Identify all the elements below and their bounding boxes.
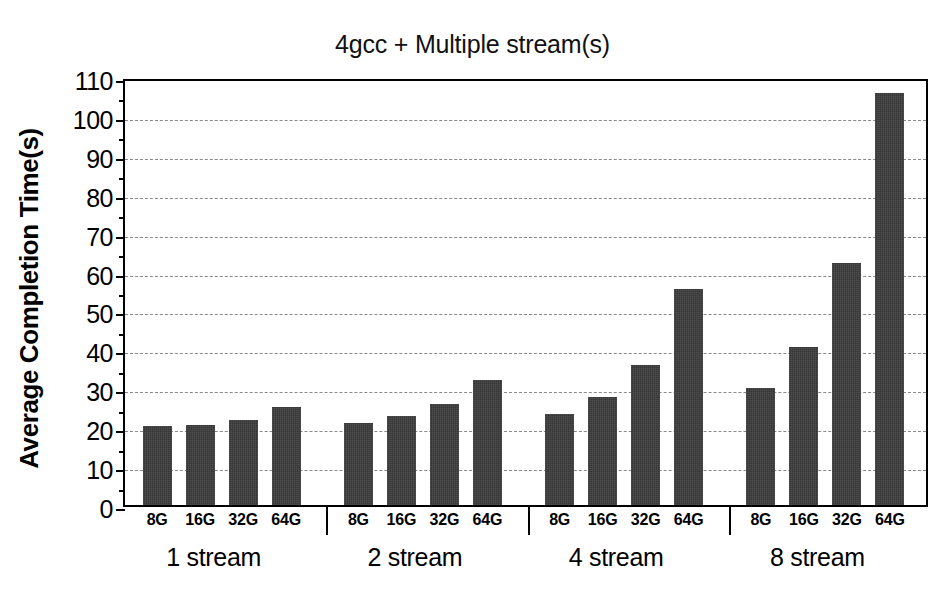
bar xyxy=(588,397,617,505)
gridline xyxy=(125,198,926,199)
y-axis-tick-label: 110 xyxy=(75,67,113,96)
x-axis-tick-label: 64G xyxy=(473,511,503,529)
x-axis-tick-label: 32G xyxy=(832,511,862,529)
bar xyxy=(430,404,459,505)
x-axis-tick-label: 16G xyxy=(185,511,215,529)
x-axis-tick-label: 32G xyxy=(631,511,661,529)
gridline xyxy=(125,276,926,277)
y-axis-minor-tick xyxy=(119,373,125,375)
x-axis-tick-label: 64G xyxy=(875,511,905,529)
y-axis-minor-tick xyxy=(119,139,125,141)
x-axis-group-label: 8 stream xyxy=(770,543,865,572)
bar xyxy=(387,416,416,505)
y-axis-minor-tick xyxy=(119,295,125,297)
group-separator xyxy=(729,505,731,535)
y-axis-label: Average Completion Time(s) xyxy=(14,84,45,514)
y-axis-tick xyxy=(116,120,125,122)
y-axis-tick-label: 30 xyxy=(86,378,113,407)
x-axis-tick-label: 8G xyxy=(348,511,369,529)
bar xyxy=(229,420,258,505)
y-axis-tick xyxy=(116,276,125,278)
y-axis-minor-tick xyxy=(119,100,125,102)
x-axis-group-label: 2 stream xyxy=(367,543,462,572)
bar xyxy=(631,365,660,505)
bar xyxy=(746,388,775,506)
y-axis-minor-tick xyxy=(119,490,125,492)
x-axis-tick-label: 32G xyxy=(430,511,460,529)
y-axis-tick-label: 60 xyxy=(86,261,113,290)
gridline xyxy=(125,237,926,238)
y-axis-tick-label: 20 xyxy=(86,417,113,446)
bar xyxy=(789,347,818,505)
x-axis-group-label: 1 stream xyxy=(166,543,261,572)
y-axis-tick xyxy=(116,159,125,161)
y-axis-tick-label: 0 xyxy=(100,495,113,524)
x-axis-tick-label: 8G xyxy=(549,511,570,529)
x-axis-tick-label: 8G xyxy=(147,511,168,529)
bar xyxy=(186,425,215,505)
y-axis-tick xyxy=(116,314,125,316)
x-axis-group-label: 4 stream xyxy=(569,543,664,572)
bar xyxy=(344,423,373,505)
group-separator xyxy=(326,505,328,535)
x-axis-tick-label: 64G xyxy=(674,511,704,529)
y-axis-tick-label: 80 xyxy=(86,183,113,212)
y-axis-tick xyxy=(116,509,125,511)
x-axis-tick-label: 16G xyxy=(789,511,819,529)
y-axis-tick-label: 100 xyxy=(73,105,113,134)
x-axis-tick-label: 32G xyxy=(228,511,258,529)
y-axis-tick xyxy=(116,237,125,239)
gridline xyxy=(125,314,926,315)
chart-figure: 4gcc + Multiple stream(s) Average Comple… xyxy=(0,0,945,604)
y-axis-minor-tick xyxy=(119,451,125,453)
x-axis-tick-label: 8G xyxy=(750,511,771,529)
y-axis-minor-tick xyxy=(119,412,125,414)
gridline xyxy=(125,120,926,121)
y-axis-tick xyxy=(116,470,125,472)
chart-title: 4gcc + Multiple stream(s) xyxy=(0,30,945,59)
y-axis-tick xyxy=(116,431,125,433)
bar xyxy=(473,380,502,505)
y-axis-tick-label: 40 xyxy=(86,339,113,368)
x-axis-tick-label: 64G xyxy=(271,511,301,529)
x-axis-tick-label: 16G xyxy=(588,511,618,529)
y-axis-tick xyxy=(116,198,125,200)
bar xyxy=(143,426,172,505)
y-axis-tick xyxy=(116,81,125,83)
y-axis-minor-tick xyxy=(119,178,125,180)
y-axis-tick-label: 90 xyxy=(86,144,113,173)
bar xyxy=(832,263,861,505)
y-axis-tick xyxy=(116,353,125,355)
y-axis-tick xyxy=(116,392,125,394)
y-axis-tick-label: 50 xyxy=(86,300,113,329)
y-axis-tick-label: 10 xyxy=(86,456,113,485)
bar xyxy=(875,93,904,505)
bar xyxy=(272,407,301,505)
group-separator xyxy=(528,505,530,535)
y-axis-minor-tick xyxy=(119,334,125,336)
y-axis-minor-tick xyxy=(119,256,125,258)
bar xyxy=(674,289,703,505)
y-axis-tick-label: 70 xyxy=(86,222,113,251)
x-axis-tick-label: 16G xyxy=(387,511,417,529)
y-axis-minor-tick xyxy=(119,217,125,219)
bar xyxy=(545,414,574,505)
gridline xyxy=(125,159,926,160)
plot-area: 0102030405060708090100110 8G16G32G64G1 s… xyxy=(123,79,928,507)
